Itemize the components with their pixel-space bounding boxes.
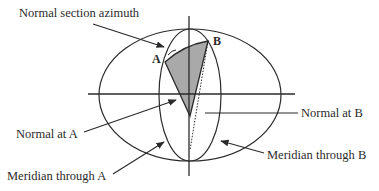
label-meridian-through-a: Meridian through A bbox=[7, 169, 106, 183]
arrow-normal-section-azimuth bbox=[93, 24, 164, 47]
arrow-meridian-through-a bbox=[113, 142, 164, 174]
diagram-canvas: Normal section azimuth A B Normal at A N… bbox=[0, 0, 379, 191]
label-normal-section-azimuth: Normal section azimuth bbox=[19, 6, 140, 20]
label-normal-at-a: Normal at A bbox=[16, 127, 78, 141]
arrow-meridian-through-b bbox=[221, 141, 264, 153]
label-point-b: B bbox=[213, 34, 221, 48]
arrow-normal-at-a bbox=[84, 100, 176, 132]
label-normal-at-b: Normal at B bbox=[301, 106, 363, 120]
label-point-a: A bbox=[152, 52, 161, 66]
normal-section-plane bbox=[165, 41, 208, 116]
label-meridian-through-b: Meridian through B bbox=[267, 148, 366, 162]
